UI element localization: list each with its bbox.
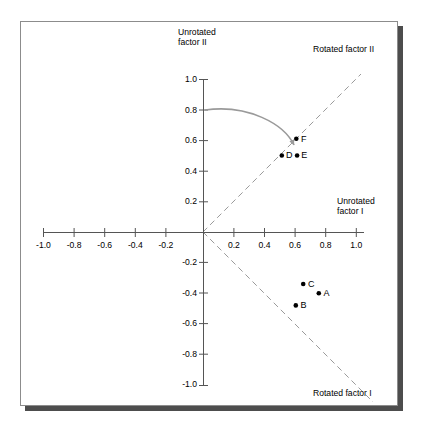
scatter-plot-area: Unrotated factor II Unrotated factor I R… bbox=[0, 0, 426, 431]
y-tick-label: -1.0 bbox=[170, 380, 197, 389]
data-point-C bbox=[301, 282, 306, 287]
x-tick-label: 0.4 bbox=[253, 241, 277, 250]
y-tick-label: 0.2 bbox=[174, 197, 197, 206]
x-tick-label: -1.0 bbox=[30, 241, 58, 250]
data-point-label-C: C bbox=[308, 280, 315, 289]
y-tick-label: 0.4 bbox=[174, 167, 197, 176]
factor-rotation-figure: Unrotated factor II Unrotated factor I R… bbox=[0, 0, 426, 431]
y-tick-label: -0.2 bbox=[170, 258, 197, 267]
data-point-label-D: D bbox=[286, 151, 293, 160]
data-point-F bbox=[294, 136, 299, 141]
y-tick-label: -0.8 bbox=[170, 350, 197, 359]
x-tick-label: -0.6 bbox=[91, 241, 119, 250]
data-point-label-F: F bbox=[301, 135, 307, 144]
x-tick-label: 0.6 bbox=[283, 241, 307, 250]
rotated-factor-ii-label: Rotated factor II bbox=[313, 44, 374, 54]
data-point-label-A: A bbox=[324, 289, 330, 298]
y-tick-label: -0.4 bbox=[170, 289, 197, 298]
y-tick-label: 1.0 bbox=[174, 75, 197, 84]
x-tick-label: 1.0 bbox=[344, 241, 368, 250]
y-tick-label: 0.8 bbox=[174, 106, 197, 115]
x-tick-label: 0.8 bbox=[314, 241, 338, 250]
unrotated-factor-ii-label: Unrotated factor II bbox=[178, 27, 216, 48]
unrotated-factor-i-label: Unrotated factor I bbox=[337, 196, 375, 217]
x-tick-label: -0.8 bbox=[60, 241, 88, 250]
x-tick-label: -0.4 bbox=[121, 241, 149, 250]
data-point-label-E: E bbox=[301, 151, 307, 160]
x-tick-label: -0.2 bbox=[152, 241, 180, 250]
y-tick-label: 0.6 bbox=[174, 136, 197, 145]
data-point-E bbox=[295, 153, 300, 158]
x-tick-label: 0.2 bbox=[222, 241, 246, 250]
data-point-label-B: B bbox=[301, 301, 307, 310]
data-point-D bbox=[280, 153, 285, 158]
rotated-factor-i-label: Rotated factor I bbox=[313, 388, 372, 398]
data-point-B bbox=[294, 303, 299, 308]
data-point-A bbox=[317, 291, 322, 296]
rotation-arrow bbox=[205, 109, 294, 145]
rotated-factor-i-axis bbox=[203, 232, 373, 402]
data-points bbox=[280, 136, 322, 307]
y-tick-label: -0.6 bbox=[170, 319, 197, 328]
